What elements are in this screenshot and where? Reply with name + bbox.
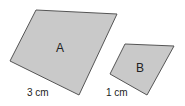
shape-a-label: A (56, 41, 64, 55)
shape-a-side-length: 3 cm (27, 87, 49, 98)
similar-shapes-diagram: A 3 cm B 1 cm (0, 0, 185, 106)
shape-b-side-length: 1 cm (106, 87, 128, 98)
shape-b-label: B (136, 61, 144, 75)
